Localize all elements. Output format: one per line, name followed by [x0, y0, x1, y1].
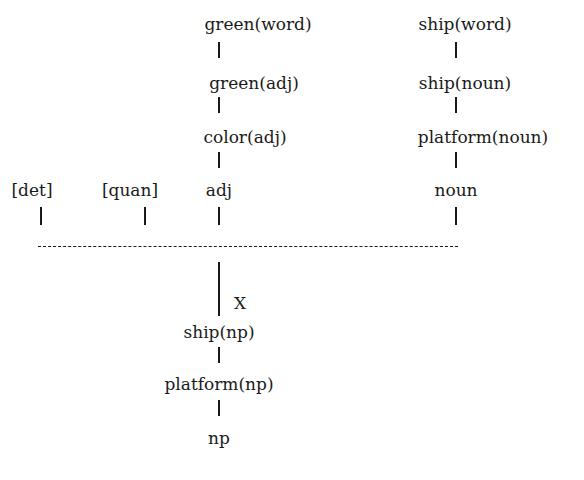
node-det: [det] — [11, 180, 52, 200]
edge — [455, 42, 457, 58]
rule-label: X — [234, 293, 246, 313]
edge — [218, 262, 220, 316]
combination-line — [38, 246, 458, 247]
edge — [455, 97, 457, 113]
node-np: np — [208, 428, 230, 448]
edge — [218, 42, 220, 58]
node-noun: noun — [434, 180, 477, 200]
edge — [40, 207, 42, 225]
edge — [218, 207, 220, 225]
node-quan: [quan] — [102, 180, 158, 200]
edge — [218, 97, 220, 113]
node-ship-noun: ship(noun) — [419, 73, 511, 93]
node-ship-word: ship(word) — [418, 14, 511, 34]
edge — [455, 152, 457, 168]
edge — [218, 152, 220, 168]
node-adj: adj — [206, 180, 232, 200]
node-platform-np: platform(np) — [164, 374, 273, 394]
edge — [144, 207, 146, 225]
node-green-word: green(word) — [204, 14, 311, 34]
edge — [218, 400, 220, 416]
node-platform-noun: platform(noun) — [418, 127, 548, 147]
node-color-adj: color(adj) — [203, 127, 286, 147]
edge — [218, 347, 220, 363]
edge — [455, 207, 457, 225]
node-green-adj: green(adj) — [209, 73, 299, 93]
node-ship-np: ship(np) — [183, 322, 254, 342]
